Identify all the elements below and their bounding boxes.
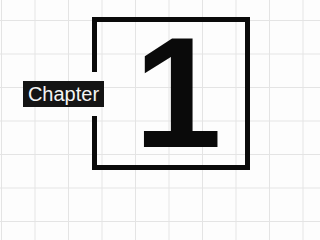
chapter-label: Chapter [23,81,104,107]
chapter-number: 1 [133,27,223,157]
